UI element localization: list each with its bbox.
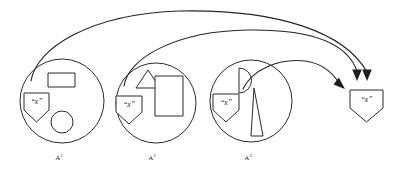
arrow-3-head-icon: [334, 78, 346, 90]
set-label-2: A2: [148, 153, 156, 162]
set-label-1: A1: [55, 153, 63, 162]
set2-rectangle-shape: [155, 76, 183, 116]
set2-node-label: “x”: [123, 100, 135, 109]
set-group-3: “x” A3: [210, 60, 292, 162]
target-node-label: “x”: [361, 95, 373, 104]
set-label-3-exponent: 3: [249, 153, 252, 158]
set-label-3: A3: [244, 153, 252, 162]
set-label-1-exponent: 1: [60, 153, 63, 158]
arrow-2-head-icon: [352, 70, 362, 82]
set1-rectangle-shape: [48, 73, 75, 87]
target-group: “x”: [350, 90, 383, 122]
diagram-canvas: “x” A1 “x” A2: [0, 0, 403, 172]
set1-node-label: “x”: [31, 97, 43, 106]
set-group-2: “x” A2: [116, 63, 196, 162]
set-label-2-exponent: 2: [153, 153, 156, 158]
set3-node-label: “x”: [220, 98, 232, 107]
arrow-1-head-icon: [362, 70, 372, 82]
set1-circle-shape: [51, 111, 73, 133]
figure-container: “x” A1 “x” A2: [0, 0, 403, 172]
